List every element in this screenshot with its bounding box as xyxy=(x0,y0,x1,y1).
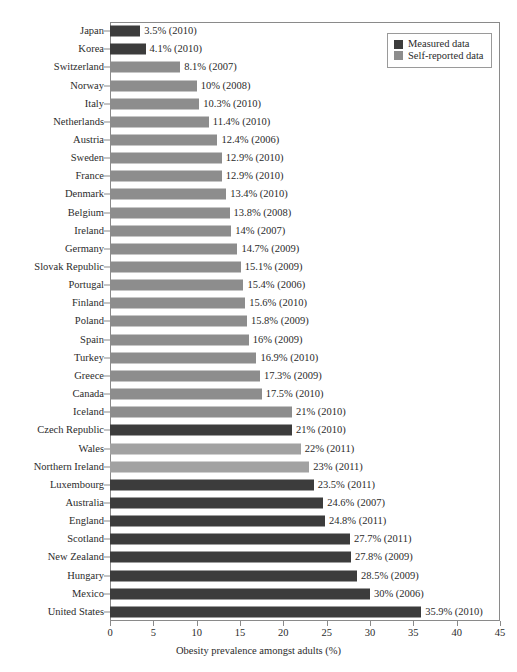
bar-row: Australia24.6% (2007) xyxy=(0,494,517,512)
bar-row: United States35.9% (2010) xyxy=(0,603,517,621)
bar-value-label: 16% (2009) xyxy=(253,334,303,345)
bar xyxy=(110,443,301,454)
category-label: Netherlands xyxy=(53,117,104,128)
category-label: New Zealand xyxy=(48,552,104,563)
obesity-prevalence-bar-chart: Japan3.5% (2010)Korea4.1% (2010)Switzerl… xyxy=(0,0,517,672)
category-label: Hungary xyxy=(67,570,104,581)
bar-value-label: 10.3% (2010) xyxy=(203,98,261,109)
legend-swatch-measured-icon xyxy=(394,40,403,49)
x-axis-tick-label: 35 xyxy=(408,628,419,639)
bar xyxy=(110,189,226,200)
legend-entry-measured: Measured data xyxy=(394,39,484,50)
x-axis-tick xyxy=(197,621,198,626)
x-axis-tick xyxy=(283,621,284,626)
category-label: Ireland xyxy=(74,225,104,236)
category-label: Italy xyxy=(85,98,104,109)
category-label: Scotland xyxy=(67,534,104,545)
category-label: Switzerland xyxy=(54,62,104,73)
bar-value-label: 15.6% (2010) xyxy=(249,298,307,309)
bar-row: Spain16% (2009) xyxy=(0,331,517,349)
x-axis-tick xyxy=(457,621,458,626)
bar-row: Denmark13.4% (2010) xyxy=(0,185,517,203)
bar-row: Slovak Republic15.1% (2009) xyxy=(0,258,517,276)
bar-value-label: 15.4% (2006) xyxy=(247,280,305,291)
bar xyxy=(110,534,350,545)
bar-value-label: 13.4% (2010) xyxy=(230,189,288,200)
bar xyxy=(110,516,325,527)
bar-value-label: 27.8% (2009) xyxy=(355,552,413,563)
bar xyxy=(110,389,262,400)
bar xyxy=(110,207,230,218)
category-label: Northern Ireland xyxy=(34,461,104,472)
bar xyxy=(110,134,217,145)
category-label: Finland xyxy=(72,298,104,309)
x-axis-tick-label: 30 xyxy=(365,628,376,639)
bar-row: Greece17.3% (2009) xyxy=(0,367,517,385)
bar-value-label: 14% (2007) xyxy=(235,225,285,236)
bar-value-label: 3.5% (2010) xyxy=(144,26,197,37)
category-label: England xyxy=(69,516,104,527)
category-label: Iceland xyxy=(73,407,104,418)
category-label: France xyxy=(75,171,104,182)
legend-label-self-reported: Self-reported data xyxy=(408,51,484,62)
bar-value-label: 13.8% (2008) xyxy=(234,207,292,218)
bar xyxy=(110,262,241,273)
category-label: Japan xyxy=(80,26,104,37)
bar xyxy=(110,407,292,418)
bar-row: Turkey16.9% (2010) xyxy=(0,349,517,367)
bar-row: Mexico30% (2006) xyxy=(0,585,517,603)
bar-row: Scotland27.7% (2011) xyxy=(0,530,517,548)
bar-value-label: 28.5% (2009) xyxy=(361,570,419,581)
bar xyxy=(110,479,314,490)
bar-value-label: 12.4% (2006) xyxy=(221,135,279,146)
bar-value-label: 24.6% (2007) xyxy=(327,498,385,509)
category-label: Wales xyxy=(79,443,104,454)
bar-value-label: 24.8% (2011) xyxy=(329,516,386,527)
bar-row: Belgium13.8% (2008) xyxy=(0,204,517,222)
bar xyxy=(110,334,249,345)
bar-rows-container: Japan3.5% (2010)Korea4.1% (2010)Switzerl… xyxy=(0,22,517,621)
x-axis-tick-label: 45 xyxy=(495,628,506,639)
bar-value-label: 16.9% (2010) xyxy=(260,353,318,364)
x-axis-tick xyxy=(370,621,371,626)
bar-row: France12.9% (2010) xyxy=(0,167,517,185)
bar-row: Poland15.8% (2009) xyxy=(0,312,517,330)
category-label: Luxembourg xyxy=(50,480,104,491)
category-label: Canada xyxy=(73,389,105,400)
bar xyxy=(110,44,146,55)
category-label: Czech Republic xyxy=(37,425,104,436)
x-axis-tick-label: 10 xyxy=(191,628,202,639)
bar-row: Northern Ireland23% (2011) xyxy=(0,458,517,476)
bar-row: Portugal15.4% (2006) xyxy=(0,276,517,294)
bar-row: Germany14.7% (2009) xyxy=(0,240,517,258)
x-axis-title: Obesity prevalence amongst adults (%) xyxy=(0,645,517,656)
legend: Measured data Self-reported data xyxy=(387,33,492,68)
bar-value-label: 14.7% (2009) xyxy=(241,244,299,255)
bar xyxy=(110,606,421,617)
bar xyxy=(110,243,237,254)
bar-row: Czech Republic21% (2010) xyxy=(0,421,517,439)
bar xyxy=(110,225,231,236)
bar-value-label: 21% (2010) xyxy=(296,407,346,418)
bar-row: Netherlands11.4% (2010) xyxy=(0,113,517,131)
bar-value-label: 12.9% (2010) xyxy=(226,153,284,164)
bar xyxy=(110,352,256,363)
category-label: Korea xyxy=(78,44,104,55)
x-axis-tick-label: 40 xyxy=(451,628,462,639)
category-label: Mexico xyxy=(72,589,104,600)
bar xyxy=(110,98,199,109)
bar xyxy=(110,298,245,309)
bar-value-label: 17.5% (2010) xyxy=(266,389,324,400)
x-axis-tick-label: 0 xyxy=(107,628,112,639)
category-label: Belgium xyxy=(68,207,104,218)
legend-label-measured: Measured data xyxy=(408,39,470,50)
category-label: Spain xyxy=(80,334,104,345)
bar-value-label: 23.5% (2011) xyxy=(318,480,375,491)
bar-value-label: 27.7% (2011) xyxy=(354,534,411,545)
bar xyxy=(110,116,209,127)
bar-row: Italy10.3% (2010) xyxy=(0,95,517,113)
bar xyxy=(110,588,370,599)
x-axis-tick-label: 25 xyxy=(321,628,332,639)
bar-value-label: 15.1% (2009) xyxy=(245,262,303,273)
bar-row: Sweden12.9% (2010) xyxy=(0,149,517,167)
